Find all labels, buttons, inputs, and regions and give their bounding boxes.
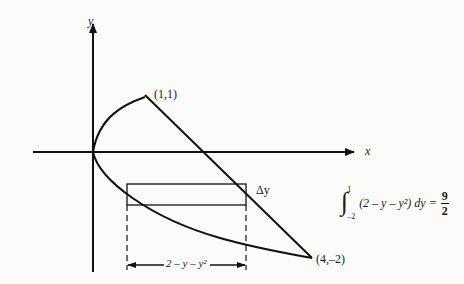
integrand: (2 – y – y²) dy = — [359, 196, 437, 211]
point-label-4-neg2: (4,–2) — [316, 252, 345, 267]
result-fraction: 9 2 — [441, 190, 449, 217]
parabola-curve — [93, 97, 312, 258]
strip-rectangle — [127, 184, 246, 205]
x-axis-label: x — [365, 144, 370, 159]
diagram-canvas — [0, 0, 464, 284]
line-segment — [145, 95, 312, 258]
result-denominator: 2 — [442, 205, 448, 217]
integral-sign-icon: ∫ — [341, 189, 348, 215]
upper-limit: 1 — [347, 185, 355, 194]
delta-y-label: Δy — [256, 183, 270, 198]
result-numerator: 9 — [442, 190, 448, 202]
lower-limit: –2 — [347, 212, 355, 221]
strip-width-label: 2 – y – y² — [166, 257, 207, 269]
integral-limits: 1 –2 — [347, 185, 355, 221]
y-axis-label: y — [88, 14, 93, 29]
integral-formula: ∫ 1 –2 (2 – y – y²) dy = 9 2 — [341, 185, 449, 221]
point-label-1-1: (1,1) — [154, 87, 177, 102]
